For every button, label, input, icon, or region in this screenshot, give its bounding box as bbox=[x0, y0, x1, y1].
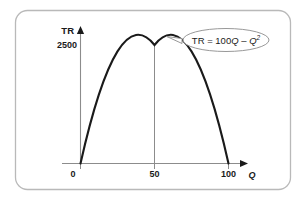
x-tick-label-100: 100 bbox=[221, 169, 236, 179]
y-axis-title: TR bbox=[61, 25, 74, 36]
y-tick-label-2500: 2500 bbox=[57, 40, 77, 50]
equation-operator: – bbox=[239, 35, 250, 46]
equation-text: TR = 100Q – Q2 bbox=[192, 34, 261, 46]
equation-prefix: TR = 100 bbox=[192, 35, 231, 46]
tr-parabola-chart: TR 2500 0 50 100 Q TR = 100Q – Q2 bbox=[0, 0, 306, 200]
chart-figure: TR 2500 0 50 100 Q TR = 100Q – Q2 bbox=[0, 0, 306, 200]
x-tick-label-50: 50 bbox=[149, 169, 159, 179]
equation-exponent: 2 bbox=[256, 34, 261, 41]
x-tick-label-0: 0 bbox=[70, 169, 75, 179]
x-axis-title: Q bbox=[248, 170, 255, 180]
